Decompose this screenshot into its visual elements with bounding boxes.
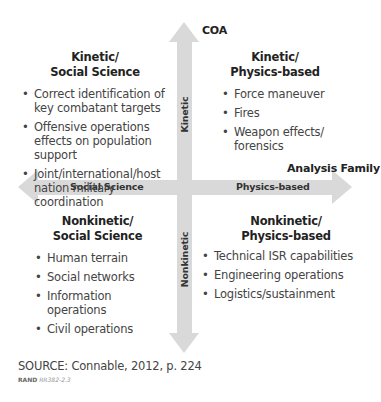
list-item: Weapon effects/ forensics <box>220 125 345 153</box>
horizontal-axis-title: Analysis Family <box>287 162 380 175</box>
title-line: Nonkinetic/ <box>30 214 165 229</box>
list-item: Joint/international/host nation military… <box>20 167 180 209</box>
publisher-label: RAND <box>18 376 37 383</box>
list-item: Offensive operations effects on populati… <box>20 120 180 162</box>
title-line: Physics-based <box>220 65 330 80</box>
source-note: SOURCE: Connable, 2012, p. 224 <box>18 359 202 373</box>
nonkinetic-physics-based-list: Technical ISR capabilities Engineering o… <box>200 249 375 306</box>
physics-based-label: Physics-based <box>236 181 310 192</box>
list-item: Technical ISR capabilities <box>200 249 375 263</box>
list-item: Human terrain <box>33 251 173 265</box>
quadrant-kinetic-physics-based: Kinetic/ Physics-based <box>220 50 330 80</box>
title-line: Kinetic/ <box>220 50 330 65</box>
quadrant-title: Nonkinetic/ Physics-based <box>226 214 346 244</box>
list-item: Information operations <box>33 289 173 317</box>
quadrant-title: Kinetic/ Physics-based <box>220 50 330 80</box>
nonkinetic-label: Nonkinetic <box>179 230 190 290</box>
quadrant-kinetic-social-science: Kinetic/ Social Science <box>20 50 170 80</box>
title-line: Social Science <box>30 229 165 244</box>
list-item: Correct identification of key combatant … <box>20 87 180 115</box>
title-line: Nonkinetic/ <box>226 214 346 229</box>
quadrant-nonkinetic-social-science: Nonkinetic/ Social Science <box>30 214 165 244</box>
quadrant-title: Kinetic/ Social Science <box>20 50 170 80</box>
list-item: Force maneuver <box>220 87 345 101</box>
list-item: Civil operations <box>33 322 173 336</box>
nonkinetic-social-science-list: Human terrain Social networks Informatio… <box>33 251 173 341</box>
title-line: Physics-based <box>226 229 346 244</box>
title-line: Kinetic/ <box>20 50 170 65</box>
list-item: Fires <box>220 106 345 120</box>
list-item: Engineering operations <box>200 268 375 282</box>
list-item: Logistics/sustainment <box>200 287 375 301</box>
kinetic-social-science-list: Correct identification of key combatant … <box>20 87 180 214</box>
quadrant-nonkinetic-physics-based: Nonkinetic/ Physics-based <box>226 214 346 244</box>
kinetic-physics-based-list: Force maneuver Fires Weapon effects/ for… <box>220 87 345 158</box>
quadrant-title: Nonkinetic/ Social Science <box>30 214 165 244</box>
kinetic-label: Kinetic <box>179 95 190 135</box>
vertical-axis-title: COA <box>202 24 227 37</box>
list-item: Social networks <box>33 270 173 284</box>
figure-number: RR382-2.3 <box>39 376 71 383</box>
title-line: Social Science <box>20 65 170 80</box>
figure-id: RAND RR382-2.3 <box>18 376 71 383</box>
